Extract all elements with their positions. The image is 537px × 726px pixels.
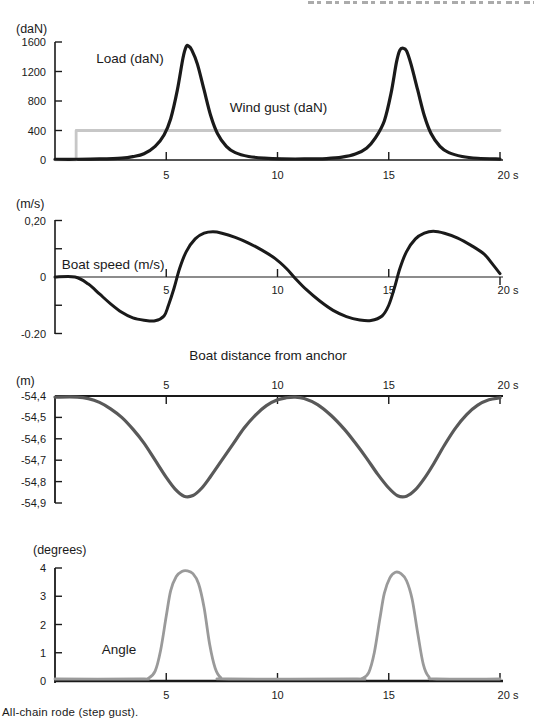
y-tick-label: -54,8 xyxy=(21,476,46,488)
curve-label: Boat speed (m/s) xyxy=(62,257,165,272)
charts-canvas: 0400800120016005101520 s(daN)Load (daN)W… xyxy=(0,0,537,726)
angle-curve xyxy=(55,571,500,680)
y-tick-label: 4 xyxy=(40,562,46,574)
x-tick-label: 20 s xyxy=(498,689,519,701)
x-tick-label: 15 xyxy=(383,689,395,701)
y-tick-label: -54,6 xyxy=(21,433,46,445)
x-tick-label: 10 xyxy=(271,379,283,391)
y-tick-label: -54,4 xyxy=(21,390,46,402)
y-tick-label: 1200 xyxy=(22,66,46,78)
y-tick-label: -0.20 xyxy=(21,328,46,340)
y-tick-label: -54,9 xyxy=(21,497,46,509)
y-tick-label: 2 xyxy=(40,619,46,631)
angle-chart: 012345101520 s(degrees)Angle xyxy=(33,543,519,701)
x-tick-label: 10 xyxy=(271,169,283,181)
figure-caption: All-chain rode (step gust). xyxy=(2,706,138,718)
y-tick-label: 0 xyxy=(40,271,46,283)
boat-distance-curve xyxy=(55,397,500,497)
y-tick-label: 400 xyxy=(28,125,46,137)
x-tick-label: 5 xyxy=(163,169,169,181)
x-tick-label: 15 xyxy=(383,379,395,391)
distance-title: Boat distance from anchor xyxy=(189,348,347,363)
y-tick-label: -54,7 xyxy=(21,454,46,466)
x-tick-label: 5 xyxy=(163,379,169,391)
y-tick-label: 800 xyxy=(28,95,46,107)
y-tick-label: 0,20 xyxy=(25,215,46,227)
y-tick-label: 0 xyxy=(40,154,46,166)
x-tick-label: 20 s xyxy=(498,284,519,296)
x-tick-label: 20 s xyxy=(498,379,519,391)
figure-page: 0400800120016005101520 s(daN)Load (daN)W… xyxy=(0,0,537,726)
speed-chart: 0,200-0.205101520 s(m/s)Boat speed (m/s) xyxy=(16,197,519,340)
x-tick-label: 15 xyxy=(383,169,395,181)
speed-unit-label: (m/s) xyxy=(16,197,44,211)
x-tick-label: 5 xyxy=(163,689,169,701)
x-tick-label: 10 xyxy=(271,689,283,701)
distance-unit-label: (m) xyxy=(16,374,35,388)
load-chart: 0400800120016005101520 s(daN)Load (daN)W… xyxy=(16,22,519,181)
x-tick-label: 20 s xyxy=(498,169,519,181)
charts-svg: 0400800120016005101520 s(daN)Load (daN)W… xyxy=(0,0,537,726)
x-tick-label: 5 xyxy=(163,284,169,296)
curve-label: Angle xyxy=(102,642,137,657)
y-tick-label: 1 xyxy=(40,647,46,659)
y-tick-label: -54,5 xyxy=(21,411,46,423)
curve-label: Load (daN) xyxy=(96,51,164,66)
curve-label: Wind gust (daN) xyxy=(230,100,328,115)
y-tick-label: 1600 xyxy=(22,36,46,48)
y-tick-label: 0 xyxy=(40,675,46,687)
angle-unit-label: (degrees) xyxy=(33,543,87,557)
y-tick-label: 3 xyxy=(40,590,46,602)
x-tick-label: 10 xyxy=(271,284,283,296)
distance-chart: -54,4-54,5-54,6-54,7-54,8-54,95101520 s(… xyxy=(16,348,519,509)
load-unit-label: (daN) xyxy=(16,22,47,36)
